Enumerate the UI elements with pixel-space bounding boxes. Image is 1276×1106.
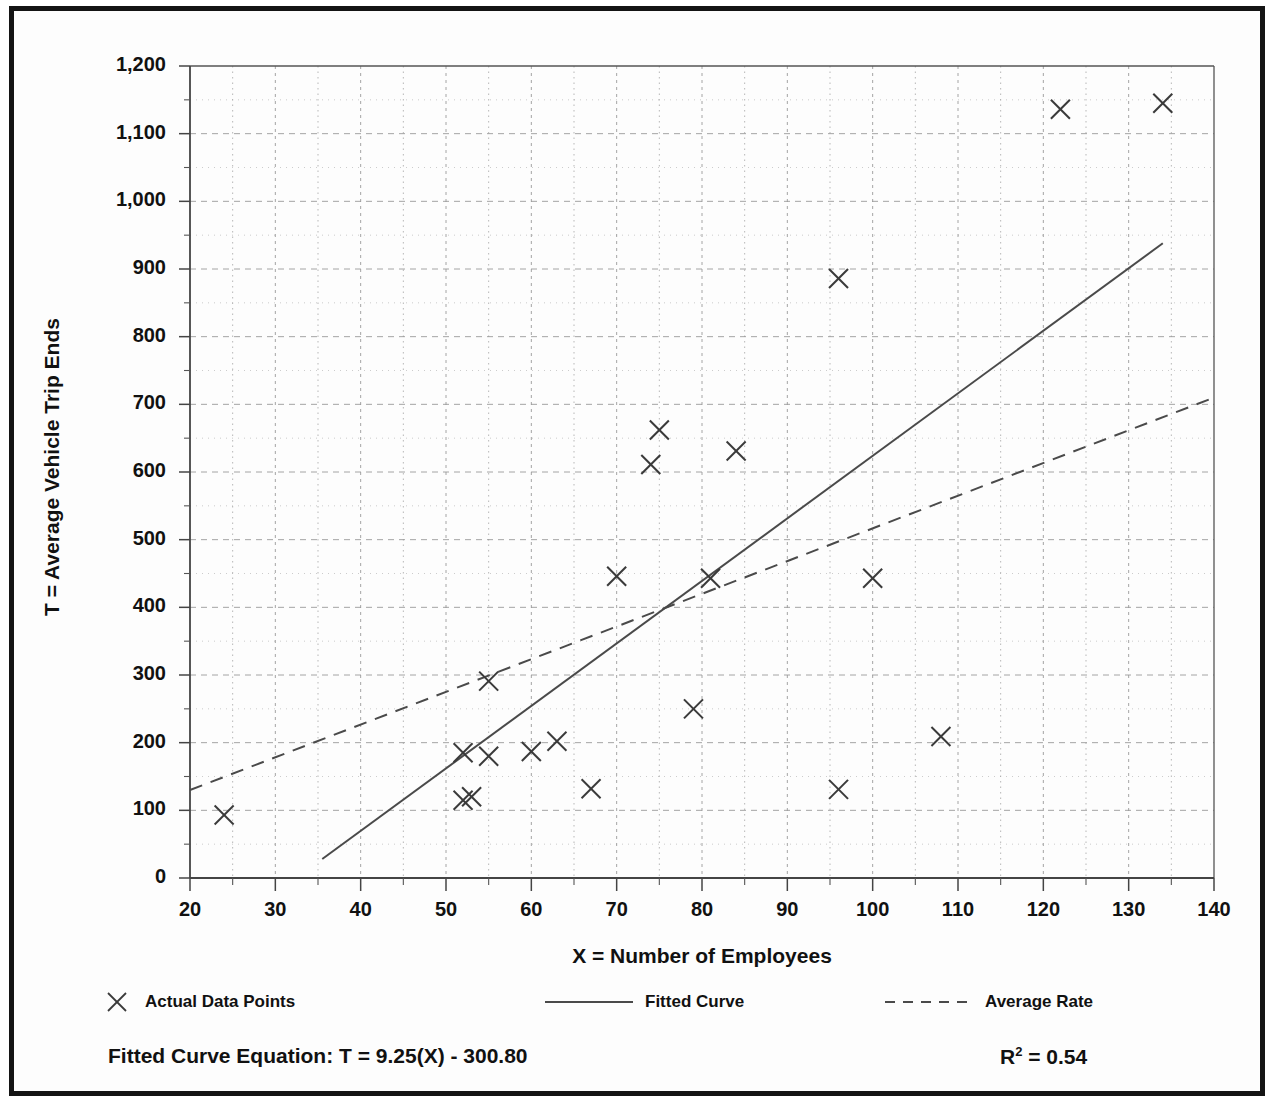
y-axis-tick-label: 400 bbox=[56, 594, 166, 617]
x-axis-tick-label: 80 bbox=[662, 898, 742, 921]
y-axis-tick-label: 300 bbox=[56, 662, 166, 685]
y-axis-tick-label: 500 bbox=[56, 527, 166, 550]
x-axis-tick-label: 40 bbox=[321, 898, 401, 921]
y-axis-tick-label: 100 bbox=[56, 797, 166, 820]
legend-swatch-2 bbox=[545, 990, 637, 1014]
fitted-curve-equation: Fitted Curve Equation: T = 9.25(X) - 300… bbox=[108, 1044, 528, 1068]
y-axis-tick-label: 200 bbox=[56, 730, 166, 753]
x-axis-tick-label: 90 bbox=[747, 898, 827, 921]
figure-frame bbox=[9, 6, 1265, 1096]
y-axis-tick-label: 0 bbox=[56, 865, 166, 888]
y-axis-tick-label: 1,100 bbox=[56, 121, 166, 144]
legend-swatch-3 bbox=[885, 990, 977, 1014]
x-axis-tick-label: 140 bbox=[1174, 898, 1254, 921]
legend-label-3: Average Rate bbox=[985, 990, 1093, 1014]
x-axis-title: X = Number of Employees bbox=[190, 944, 1214, 968]
x-axis-tick-label: 120 bbox=[1003, 898, 1083, 921]
r-squared-value: R2 = 0.54 bbox=[1000, 1044, 1087, 1069]
y-axis-tick-label: 800 bbox=[56, 324, 166, 347]
y-axis-tick-label: 1,200 bbox=[56, 53, 166, 76]
legend-label-2: Fitted Curve bbox=[645, 990, 744, 1014]
r-squared-prefix: R bbox=[1000, 1045, 1015, 1068]
x-axis-tick-label: 50 bbox=[406, 898, 486, 921]
x-axis-tick-label: 70 bbox=[577, 898, 657, 921]
x-axis-tick-label: 60 bbox=[491, 898, 571, 921]
y-axis-tick-label: 1,000 bbox=[56, 188, 166, 211]
x-axis-tick-label: 30 bbox=[235, 898, 315, 921]
r-squared-suffix: = 0.54 bbox=[1022, 1045, 1087, 1068]
x-axis-tick-label: 110 bbox=[918, 898, 998, 921]
x-axis-tick-label: 20 bbox=[150, 898, 230, 921]
x-axis-tick-label: 100 bbox=[833, 898, 913, 921]
legend-label-1: Actual Data Points bbox=[145, 990, 295, 1014]
x-axis-tick-label: 130 bbox=[1089, 898, 1169, 921]
y-axis-tick-label: 900 bbox=[56, 256, 166, 279]
y-axis-tick-label: 600 bbox=[56, 459, 166, 482]
y-axis-tick-label: 700 bbox=[56, 391, 166, 414]
